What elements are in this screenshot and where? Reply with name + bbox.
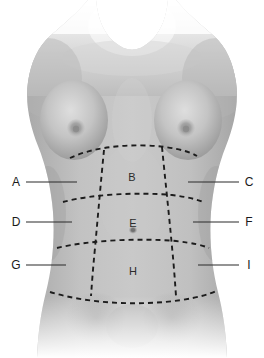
region-label-h: H bbox=[129, 266, 137, 277]
region-label-i: I bbox=[247, 259, 250, 271]
region-label-f: F bbox=[245, 216, 252, 228]
region-label-c: C bbox=[245, 176, 254, 188]
region-label-d: D bbox=[12, 216, 21, 228]
region-label-e: E bbox=[129, 218, 137, 229]
region-label-b: B bbox=[128, 172, 136, 183]
abdominal-regions-figure: B E H A D G C F I bbox=[0, 0, 264, 358]
region-label-g: G bbox=[11, 259, 20, 271]
region-label-a: A bbox=[12, 176, 20, 188]
